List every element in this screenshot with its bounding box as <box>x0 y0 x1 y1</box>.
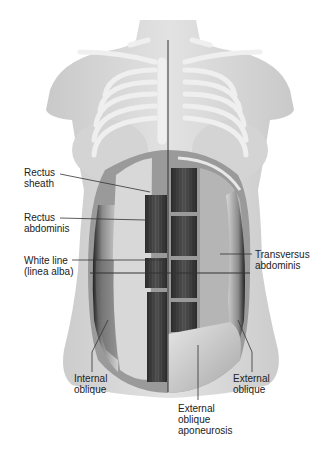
label-line: Rectus <box>24 212 70 223</box>
label-external-oblique: External oblique <box>233 373 270 395</box>
label-line: abdominis <box>24 223 70 234</box>
label-line: External <box>233 373 270 384</box>
rectus-abdominis-right <box>171 168 197 332</box>
anatomy-figure: Rectus sheath Rectus abdominis White lin… <box>0 0 322 450</box>
label-line: Rectus <box>24 167 55 178</box>
label-line: abdominis <box>255 260 310 271</box>
label-internal-oblique: Internal oblique <box>74 373 107 395</box>
label-line: sheath <box>24 178 55 189</box>
label-line: aponeurosis <box>178 425 232 436</box>
abdominal-wall <box>88 150 250 393</box>
label-line: Internal <box>74 373 107 384</box>
label-line: (linea alba) <box>24 266 73 277</box>
label-line: External <box>178 403 232 414</box>
label-line: White line <box>24 255 73 266</box>
label-line: oblique <box>74 384 107 395</box>
label-external-oblique-aponeurosis: External oblique aponeurosis <box>178 403 232 436</box>
label-rectus-sheath: Rectus sheath <box>24 167 55 189</box>
label-white-line: White line (linea alba) <box>24 255 73 277</box>
label-transversus-abdominis: Transversus abdominis <box>255 249 310 271</box>
label-line: oblique <box>233 384 270 395</box>
label-rectus-abdominis: Rectus abdominis <box>24 212 70 234</box>
label-line: oblique <box>178 414 232 425</box>
label-line: Transversus <box>255 249 310 260</box>
